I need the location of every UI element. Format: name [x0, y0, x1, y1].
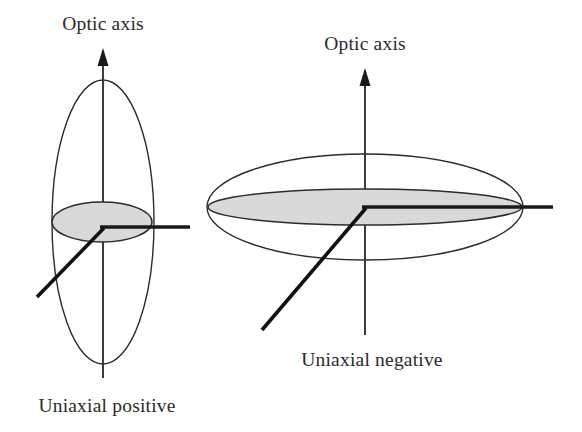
panel-uniaxial-negative: Optic axis Uniaxial negative	[207, 33, 553, 370]
diagram-canvas: Optic axis Uniaxial positive Optic axis	[0, 0, 582, 432]
optic-axis-arrow-left	[98, 48, 109, 66]
caption-uniaxial-positive: Uniaxial positive	[38, 395, 175, 416]
optic-axis-label-left: Optic axis	[62, 13, 144, 34]
caption-uniaxial-negative: Uniaxial negative	[301, 349, 442, 370]
indicatrix-figure: Optic axis Uniaxial positive Optic axis	[0, 0, 582, 432]
panel-uniaxial-positive: Optic axis Uniaxial positive	[37, 13, 190, 416]
optic-axis-arrow-right	[360, 68, 371, 86]
oblique-ray-left	[37, 228, 104, 297]
oblique-ray-right	[262, 208, 366, 330]
circular-section-left	[52, 202, 152, 242]
optic-axis-label-right: Optic axis	[324, 33, 406, 54]
